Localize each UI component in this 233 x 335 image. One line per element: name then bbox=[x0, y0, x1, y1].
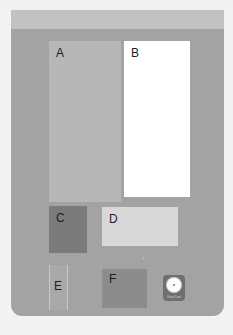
block-d: D bbox=[102, 207, 178, 246]
app-icon-caption: FlashCam bbox=[163, 296, 185, 299]
header-band bbox=[11, 10, 224, 29]
block-e: E bbox=[49, 265, 68, 310]
app-icon-button[interactable]: FlashCam bbox=[163, 275, 185, 301]
block-d-label: D bbox=[109, 213, 118, 225]
disc-icon bbox=[167, 278, 181, 292]
block-a-label: A bbox=[56, 47, 64, 59]
block-f: F bbox=[102, 269, 147, 308]
block-f-label: F bbox=[109, 273, 116, 285]
block-c-label: C bbox=[56, 212, 65, 224]
disc-center-dot bbox=[173, 284, 175, 286]
block-b: B bbox=[124, 41, 190, 197]
top-margin bbox=[0, 0, 233, 10]
device-panel: A B C D E F FlashCam bbox=[11, 10, 224, 316]
divider-tick bbox=[143, 257, 144, 260]
block-b-label: B bbox=[131, 47, 139, 59]
block-e-label: E bbox=[54, 280, 62, 292]
block-c: C bbox=[49, 206, 87, 253]
block-a: A bbox=[49, 41, 121, 202]
